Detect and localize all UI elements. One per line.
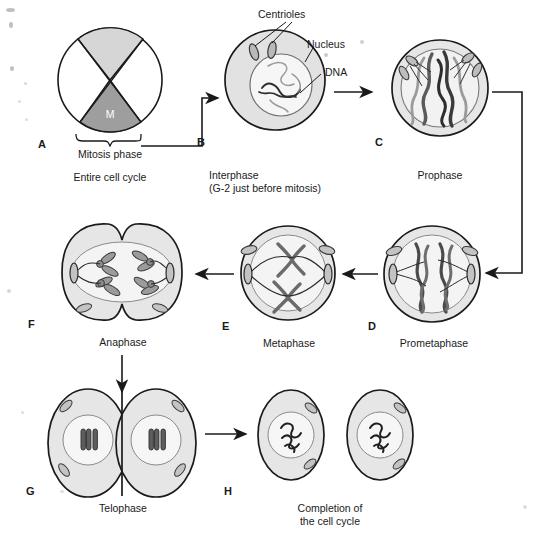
mitosis-phase-bracket [76,134,141,146]
panel-f-anaphase-cell [62,224,182,320]
panel-caption-g: Telophase [77,502,169,514]
panel-letter-a: A [38,138,46,150]
callout-centrioles-label: Centrioles [258,8,305,20]
spindle-pole-d-left [389,264,397,284]
panel-g-telophase-cell [48,389,196,497]
panel-caption-b: Interphase [209,169,259,181]
spindle-pole-f-left [70,263,78,283]
panel-e-metaphase-cell [240,226,336,320]
chromosomes-g-right [149,429,165,450]
panel-caption-h: Completion of [265,502,395,514]
callout-nucleus-label: Nucleus [307,38,345,50]
panel-letter-c: C [375,136,383,148]
spindle-pole-e-right [324,264,332,284]
daughter-cell-h-left [258,390,324,480]
mitosis-phase-bracket-label: Mitosis phase [60,148,160,160]
panel-h-completion-cells [258,390,413,480]
panel-caption-f: Anaphase [78,336,168,348]
spindle-pole-e-left [244,264,252,284]
panel-c-prophase-cell [392,40,488,136]
panel-letter-h: H [224,485,232,497]
spindle-region-f [72,242,172,302]
panel-caption-d: Prometaphase [380,337,488,349]
panel-caption-a: Entire cell cycle [40,171,180,183]
spindle-pole-f-right [166,263,174,283]
panel-letter-f: F [28,318,35,330]
cell-cycle-artwork: M [0,0,538,534]
pie-wedge-mitosis-label: M [106,108,115,120]
chromosomes-g-left [81,429,97,450]
panel-letter-e: E [222,320,229,332]
panel-caption-e: Metaphase [243,337,335,349]
panel-subcaption-h: the cell cycle [265,515,395,527]
spindle-pole-d-right [467,264,475,284]
panel-subcaption-b: (G-2 just before mitosis) [209,182,321,194]
arrow-c-to-d [486,92,522,273]
panel-a-cell-cycle-pie: M [58,28,162,146]
diagram-canvas: M [0,0,538,534]
panel-d-prometaphase-cell [384,226,480,322]
callout-dna-label: DNA [325,66,347,78]
panel-letter-b: B [197,136,205,148]
inner-ring-d [393,235,471,313]
panel-letter-g: G [26,485,35,497]
panel-letter-d: D [368,320,376,332]
panel-caption-c: Prophase [390,169,490,181]
daughter-cell-h-right [347,390,413,480]
